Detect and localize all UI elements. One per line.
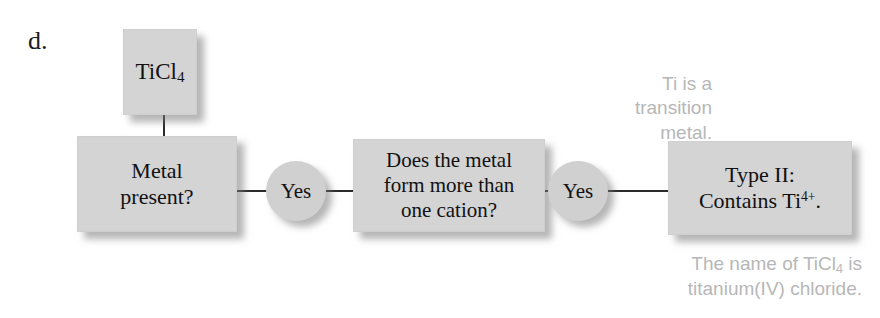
annotation-bottom-line-2: titanium(IV) chloride. (600, 277, 862, 301)
metal-line-1: Metal (131, 158, 182, 183)
node-formula-ticl4: TiCl4 (123, 29, 197, 115)
annotation-top-line-3: metal. (500, 121, 712, 145)
annotation-top-line-1: Ti is a (500, 72, 712, 96)
annotation-bottom-subscript: 4 (836, 262, 843, 276)
cation-line-1: Does the metal (386, 148, 512, 172)
connector-yes2-to-type (605, 190, 671, 192)
yes-second-text: Yes (563, 179, 594, 204)
formula-subscript: 4 (177, 68, 185, 85)
formula-main: TiCl (136, 59, 177, 84)
node-decision-metal-present: Metalpresent? (77, 136, 237, 232)
type-line-2-pre: Contains Ti (699, 188, 801, 213)
type-line-1: Type II: (725, 162, 795, 187)
annotation-bottom-line-1: The name of TiCl4 is (600, 252, 862, 277)
part-label: d. (28, 28, 48, 54)
cation-line-2: form more than (384, 173, 515, 197)
node-formula-text: TiCl4 (130, 58, 191, 86)
node-decision-more-than-one-cation: Does the metalform more thanone cation? (353, 139, 545, 232)
connector-label-yes-first: Yes (266, 161, 326, 221)
node-result-type-ii: Type II:Contains Ti4+. (668, 141, 852, 235)
connector-metal-to-yes1 (237, 190, 269, 192)
connector-yes1-to-cation (323, 190, 355, 192)
annotation-bottom-post: is (843, 253, 862, 274)
type-charge-superscript: 4+ (801, 189, 816, 204)
yes-first-text: Yes (281, 179, 312, 204)
annotation-top-line-2: transition (500, 96, 712, 120)
connector-label-yes-second: Yes (548, 161, 608, 221)
flowchart-canvas: d. TiCl4 Metalpresent? Yes Does the meta… (0, 0, 880, 318)
cation-line-3: one cation? (401, 198, 497, 222)
annotation-compound-name: The name of TiCl4 is titanium(IV) chlori… (600, 252, 862, 301)
node-decision-metal-text: Metalpresent? (114, 158, 199, 210)
annotation-transition-metal: Ti is a transition metal. (500, 72, 712, 145)
node-result-text: Type II:Contains Ti4+. (693, 162, 827, 214)
annotation-bottom-pre: The name of TiCl (691, 253, 836, 274)
metal-line-2: present? (120, 184, 193, 209)
node-decision-cation-text: Does the metalform more thanone cation? (378, 148, 521, 222)
type-line-2-post: . (816, 188, 822, 213)
